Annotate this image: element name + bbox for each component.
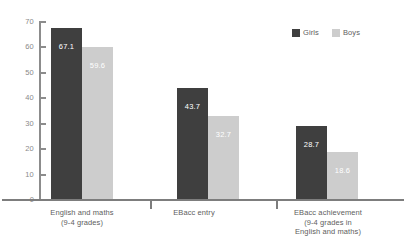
x-axis-line <box>2 199 404 201</box>
y-axis-tick-30 <box>41 123 46 125</box>
bar-value-label: 18.6 <box>327 166 358 175</box>
y-axis-label-30: 30 <box>0 120 34 128</box>
bar-girls-ebacc-entry: 43.7 <box>177 88 208 199</box>
y-axis-label-70: 70 <box>0 18 34 26</box>
legend-label-boys: Boys <box>343 29 360 37</box>
legend-item-boys: Boys <box>332 29 360 37</box>
y-axis-label-40: 40 <box>0 94 34 102</box>
group-label-line: English and maths) <box>276 227 380 237</box>
bar-boys-english-and-maths: 59.6 <box>82 47 113 199</box>
legend-swatch-boys <box>332 29 340 37</box>
y-axis-tick-40 <box>41 97 46 99</box>
bar-value-label: 28.7 <box>296 140 327 149</box>
bar-girls-english-and-maths: 67.1 <box>51 28 82 199</box>
group-label-line: (9-4 grades in <box>276 218 380 228</box>
x-axis-separator-tick-1 <box>150 201 152 209</box>
group-label-line: English and maths <box>27 208 137 218</box>
y-axis-tick-10 <box>41 174 46 176</box>
legend: Girls Boys <box>292 29 360 37</box>
x-axis-group-label-ebacc-entry: EBacc entry <box>158 208 230 218</box>
y-axis-label-50: 50 <box>0 69 34 77</box>
y-axis-tick-50 <box>41 72 46 74</box>
x-axis-group-label-english-and-maths: English and maths (9-4 grades) <box>27 208 137 227</box>
y-axis-label-60: 60 <box>0 43 34 51</box>
legend-item-girls: Girls <box>292 29 319 37</box>
y-axis-tick-20 <box>41 148 46 150</box>
legend-label-girls: Girls <box>303 29 319 37</box>
x-axis-group-label-ebacc-achievement: EBacc achievement (9-4 grades in English… <box>276 208 380 237</box>
group-label-line: EBacc achievement <box>276 208 380 218</box>
bar-value-label: 32.7 <box>208 130 239 139</box>
group-label-line: EBacc entry <box>158 208 230 218</box>
legend-swatch-girls <box>292 29 300 37</box>
y-axis-tick-60 <box>41 46 46 48</box>
bar-girls-ebacc-achievement: 28.7 <box>296 126 327 199</box>
bar-value-label: 59.6 <box>82 61 113 70</box>
bar-chart: 70 60 50 40 30 20 10 0 67.1 59.6 English… <box>0 0 410 242</box>
bar-boys-ebacc-entry: 32.7 <box>208 116 239 199</box>
group-label-line: (9-4 grades) <box>27 218 137 228</box>
y-axis-label-10: 10 <box>0 171 34 179</box>
y-axis-tick-70 <box>41 21 46 23</box>
y-axis-label-20: 20 <box>0 145 34 153</box>
bar-value-label: 43.7 <box>177 102 208 111</box>
bar-value-label: 67.1 <box>51 42 82 51</box>
bar-boys-ebacc-achievement: 18.6 <box>327 152 358 199</box>
